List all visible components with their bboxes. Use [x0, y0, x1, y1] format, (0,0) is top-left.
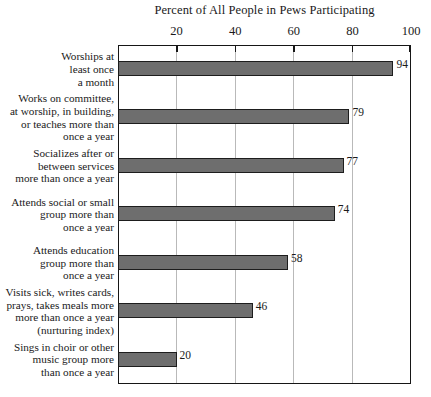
category-label-line: once a year [0, 269, 114, 282]
category-label-2: Works on committee,at worship, in buildi… [0, 92, 114, 142]
bars-layer: 94797774584620 [118, 45, 411, 384]
bar-value-label: 58 [291, 252, 303, 264]
bar [118, 206, 335, 221]
bar-row: 46 [118, 287, 411, 335]
bar-value-label: 79 [352, 106, 364, 118]
bar-row: 74 [118, 190, 411, 238]
x-tick-label-60: 60 [274, 24, 314, 39]
bar-row: 58 [118, 239, 411, 287]
bar-value-label: 94 [396, 58, 408, 70]
category-label-line: Sings in choir or other [0, 341, 114, 354]
x-tick-label-100: 100 [391, 24, 431, 39]
bar-value-label: 46 [256, 300, 268, 312]
bar [118, 61, 393, 76]
category-label-line: at worship, in building, [0, 105, 114, 118]
bar-row: 94 [118, 45, 411, 93]
category-label-line: group more than [0, 208, 114, 221]
category-label-line: Socializes after or [0, 147, 114, 160]
bar-row: 77 [118, 142, 411, 190]
category-label-line: prays, takes meals more [0, 299, 114, 312]
category-label-line: once a year [0, 130, 114, 143]
bar-value-label: 20 [180, 349, 192, 361]
x-tick-label-20: 20 [157, 24, 197, 39]
category-label-line: more than once a year [0, 172, 114, 185]
category-label-line: Attends education [0, 244, 114, 257]
category-label-line: least once [0, 63, 114, 76]
category-label-line: (nurturing index) [0, 324, 114, 337]
category-label-line: a month [0, 76, 114, 89]
bar-chart: Percent of All People in Pews Participat… [0, 0, 431, 397]
category-label-line: between services [0, 160, 114, 173]
category-label-4: Attends social or smallgroup more thanon… [0, 196, 114, 234]
category-label-1: Worships atleast oncea month [0, 50, 114, 88]
bar-value-label: 74 [338, 203, 350, 215]
category-label-line: or teaches more than [0, 118, 114, 131]
category-label-5: Attends educationgroup more thanonce a y… [0, 244, 114, 282]
category-axis-labels: Worships atleast oncea monthWorks on com… [0, 45, 114, 384]
category-label-3: Socializes after orbetween servicesmore … [0, 147, 114, 185]
category-label-line: Visits sick, writes cards, [0, 286, 114, 299]
category-label-line: Worships at [0, 50, 114, 63]
bar-value-label: 77 [347, 155, 359, 167]
x-tick-label-40: 40 [215, 24, 255, 39]
category-label-7: Sings in choir or othermusic group moret… [0, 341, 114, 379]
category-label-line: music group more [0, 353, 114, 366]
category-label-line: Works on committee, [0, 92, 114, 105]
category-label-line: more than once a year [0, 311, 114, 324]
bar-row: 20 [118, 336, 411, 384]
category-label-line: group more than [0, 257, 114, 270]
category-label-line: Attends social or small [0, 196, 114, 209]
category-label-6: Visits sick, writes cards,prays, takes m… [0, 286, 114, 336]
category-label-line: once a year [0, 221, 114, 234]
x-tick-label-80: 80 [332, 24, 372, 39]
bar [118, 352, 177, 367]
bar [118, 158, 344, 173]
bar [118, 109, 349, 124]
bar [118, 255, 288, 270]
bar [118, 303, 253, 318]
category-label-line: than once a year [0, 366, 114, 379]
bar-row: 79 [118, 93, 411, 141]
x-axis-tick-labels: 20406080100 [0, 24, 431, 42]
chart-title: Percent of All People in Pews Participat… [118, 3, 411, 18]
